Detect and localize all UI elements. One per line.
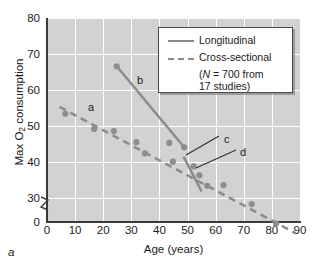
y-axis-break-icon — [41, 197, 48, 210]
data-point — [249, 201, 255, 207]
legend-note-n: N — [203, 68, 211, 80]
data-point — [273, 220, 279, 226]
data-point — [91, 126, 97, 132]
data-point — [142, 150, 148, 156]
annotation-label-a: a — [88, 101, 94, 113]
data-point — [204, 183, 210, 189]
leader-line-c — [186, 136, 219, 155]
annotation-label-b: b — [137, 74, 143, 86]
data-point — [181, 144, 187, 150]
legend-note-line1: (N = 700 from — [199, 68, 264, 80]
annotation-label-d: d — [240, 146, 246, 158]
leader-line-d — [196, 150, 236, 168]
data-point — [166, 140, 172, 146]
figure-panel-a: 0304050607080 0102030405060708090 Max O2… — [0, 0, 316, 272]
annotation-label-c: c — [224, 133, 230, 145]
data-point — [133, 139, 139, 145]
data-point — [191, 163, 197, 169]
data-point — [170, 159, 176, 165]
data-point — [114, 63, 120, 69]
data-point — [196, 172, 202, 178]
legend-swatch-longitudinal — [168, 40, 194, 42]
chart-legend: Longitudinal Cross-sectional (N = 700 fr… — [158, 27, 293, 93]
legend-label-longitudinal: Longitudinal — [199, 34, 256, 46]
legend-note-line2: 17 studies) — [199, 80, 250, 92]
trend-line-cross-sectional — [60, 107, 296, 233]
data-point — [220, 182, 226, 188]
legend-label-cross-sectional: Cross-sectional — [199, 51, 271, 63]
legend-swatch-cross-sectional — [168, 58, 194, 60]
data-point — [111, 128, 117, 134]
data-point — [62, 111, 68, 117]
legend-note-rest: = 700 from — [210, 68, 263, 80]
